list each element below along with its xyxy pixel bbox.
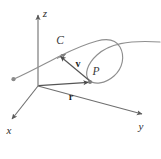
y-axis-line [38,86,142,114]
axis-group: z x y [6,7,144,136]
space-curve-group: C [11,34,160,83]
x-axis-label: x [6,124,12,136]
z-axis-label: z [42,7,48,19]
curve-start-dot [11,77,15,81]
curve-label-C: C [56,34,64,46]
position-vector-r-arrow [39,82,89,85]
figure-canvas: z x y C r v P [0,0,161,159]
y-axis-label: y [138,120,144,132]
vector-label-r: r [69,91,74,102]
point-p-label: P [91,65,99,77]
point-p-marker [88,80,92,84]
space-curve-path [14,40,160,83]
vector-label-v: v [76,58,81,69]
point-p-group: P [88,65,100,84]
vector-calculus-figure: z x y C r v P [0,0,161,159]
x-axis-line [12,86,38,119]
